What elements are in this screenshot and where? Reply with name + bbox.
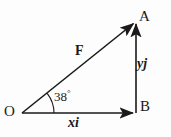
angle-arc <box>47 93 54 113</box>
label-point-b: B <box>140 99 150 114</box>
vector-diagram: A O B F yj xi 38° <box>0 0 171 137</box>
angle-number: 38 <box>54 89 67 104</box>
label-angle: 38° <box>54 89 71 103</box>
force-vector-line <box>22 24 134 114</box>
label-vertical-component: yj <box>137 57 147 71</box>
label-horizontal-component: xi <box>68 116 79 130</box>
label-force-vector: F <box>75 44 84 58</box>
label-point-o: O <box>4 104 15 119</box>
label-point-a: A <box>139 9 150 24</box>
degree-symbol: ° <box>67 88 71 98</box>
